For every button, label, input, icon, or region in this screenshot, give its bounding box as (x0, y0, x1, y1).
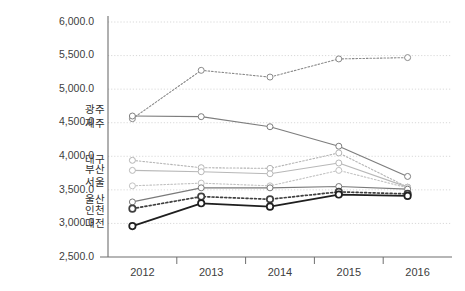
data-point-marker (336, 160, 342, 166)
data-point-marker (336, 143, 342, 149)
data-point-marker (267, 171, 273, 177)
data-point-marker (198, 114, 204, 120)
data-point-marker (267, 203, 273, 209)
data-point-marker (129, 157, 135, 163)
series-label-5: 울산 (85, 193, 105, 205)
data-point-marker (129, 223, 135, 229)
data-point-marker (405, 55, 411, 61)
x-axis-tick-labels: 20122013201420152016 (130, 266, 430, 278)
series-name-labels: 제주광주대구부산서울울산인천대전 (85, 103, 105, 229)
series-label-1: 광주 (85, 103, 105, 115)
series-label-0: 제주 (85, 117, 105, 129)
data-point-marker (336, 56, 342, 62)
series-line-0 (132, 58, 407, 119)
data-point-marker (336, 167, 342, 173)
data-point-marker (267, 124, 273, 130)
y-axis-tick-label: 5,500.0 (59, 48, 94, 60)
data-point-marker (336, 191, 342, 197)
data-point-marker (267, 196, 273, 202)
x-axis-tick-marks (177, 257, 383, 264)
data-point-marker (336, 150, 342, 156)
y-axis-tick-label: 6,000.0 (59, 15, 94, 27)
data-point-marker (404, 193, 410, 199)
x-axis-tick-label: 2016 (405, 266, 429, 278)
x-axis-tick-label: 2014 (268, 266, 292, 278)
axis-lines (100, 16, 452, 257)
series-label-4: 서울 (85, 176, 105, 188)
y-axis-tick-label: 2,500.0 (59, 250, 94, 262)
data-point-marker (198, 185, 204, 191)
series-label-7: 대전 (85, 217, 105, 229)
data-point-marker (267, 185, 273, 191)
data-point-marker (198, 200, 204, 206)
data-point-marker (405, 173, 411, 179)
data-point-marker (198, 67, 204, 73)
series-label-3: 부산 (85, 163, 105, 175)
x-axis-tick-label: 2012 (130, 266, 154, 278)
data-point-marker (198, 169, 204, 175)
x-axis-tick-label: 2015 (337, 266, 361, 278)
data-point-marker (129, 113, 135, 119)
x-axis-tick-label: 2013 (199, 266, 223, 278)
data-point-marker (129, 183, 135, 189)
data-point-marker (129, 167, 135, 173)
data-point-marker (267, 74, 273, 80)
chart-canvas: 2,500.03,000.03,500.04,000.04,500.05,000… (0, 0, 465, 291)
line-chart: 2,500.03,000.03,500.04,000.04,500.05,000… (0, 0, 465, 291)
data-point-marker (198, 193, 204, 199)
series-markers (129, 55, 411, 230)
series-label-6: 인천 (85, 204, 105, 216)
y-axis-tick-label: 5,000.0 (59, 82, 94, 94)
data-point-marker (129, 205, 135, 211)
data-point-marker (129, 199, 135, 205)
